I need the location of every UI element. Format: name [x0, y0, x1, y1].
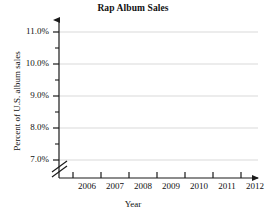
x-tick-label-2007: 2007: [100, 181, 130, 191]
x-tick-label-2010: 2010: [184, 181, 214, 191]
y-axis: [53, 20, 59, 178]
y-axis-title: Percent of U.S. album sales: [12, 31, 22, 171]
x-axis-title: Year: [0, 199, 266, 209]
chart-figure: Rap Album Sales: [0, 0, 266, 219]
x-tick-label-2008: 2008: [128, 181, 158, 191]
x-tick-label-2012: 2012: [240, 181, 266, 191]
gridlines: [59, 32, 258, 160]
x-tick-label-2006: 2006: [72, 181, 102, 191]
x-tick-label-2009: 2009: [156, 181, 186, 191]
x-axis: [59, 172, 258, 178]
x-tick-label-2011: 2011: [212, 181, 242, 191]
